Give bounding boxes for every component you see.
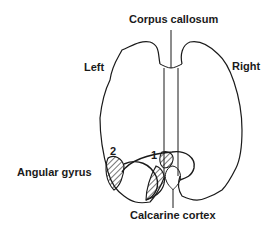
region-number-2: 2 <box>110 145 116 157</box>
region-number-1: 1 <box>151 149 157 161</box>
label-corpus-callosum: Corpus callosum <box>129 13 218 25</box>
label-right: Right <box>232 60 260 72</box>
label-angular-gyrus: Angular gyrus <box>17 166 92 178</box>
region-1-hatched-upper <box>160 151 173 168</box>
label-calcarine-cortex: Calcarine cortex <box>130 209 216 221</box>
region-1-hatched-lower <box>146 166 165 200</box>
region-2-hatched <box>106 156 124 190</box>
label-left: Left <box>84 61 104 73</box>
brain-diagram <box>0 0 272 235</box>
